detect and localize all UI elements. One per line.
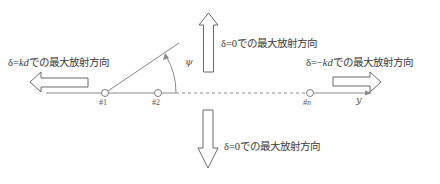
right-arrow-label-prefix: δ=−	[306, 57, 323, 68]
element-1-marker	[102, 90, 109, 97]
right-arrow-label-var: kd	[323, 57, 333, 68]
top-arrow-label-text: δ=0での最大放射方向	[221, 38, 317, 49]
up-radiation-arrow-icon	[199, 13, 218, 72]
element-2-label: #2	[152, 98, 160, 107]
angle-arc	[166, 56, 176, 93]
element-n-label: #n	[303, 98, 311, 107]
down-radiation-arrow-icon	[198, 110, 218, 168]
array-diagram-canvas	[0, 0, 440, 184]
right-arrow-label-suffix: での最大放射方向	[333, 57, 413, 68]
bottom-arrow-label-text: δ=0での最大放射方向	[224, 141, 320, 152]
element-1-label: #1	[99, 98, 107, 107]
angle-psi-label: ψ	[185, 56, 193, 67]
left-radiation-arrow-icon	[30, 72, 88, 92]
right-radiation-arrow-icon	[333, 72, 381, 92]
right-arrow-label: δ=−kdでの最大放射方向	[306, 54, 413, 69]
element-2-marker	[155, 90, 162, 97]
left-arrow-label: δ=kdでの最大放射方向	[8, 54, 109, 69]
element-n-marker	[307, 90, 314, 97]
bottom-arrow-label: δ=0での最大放射方向	[224, 138, 320, 153]
y-axis-label: y	[356, 94, 362, 105]
top-arrow-label: δ=0での最大放射方向	[221, 35, 317, 50]
direction-line	[105, 43, 179, 93]
left-arrow-label-prefix: δ=	[8, 57, 19, 68]
left-arrow-label-suffix: での最大放射方向	[29, 57, 109, 68]
left-arrow-label-var: kd	[19, 57, 29, 68]
